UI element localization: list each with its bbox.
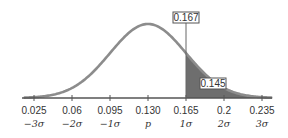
x-tick-label: 0.2 — [217, 105, 231, 116]
marker-label: 0.167 — [173, 12, 198, 23]
x-tick-label: 0.235 — [249, 105, 274, 116]
x-tick-label: 0.095 — [97, 105, 122, 116]
normal-distribution-chart: 0.025−3σ0.06−2σ0.095−1σ0.130p0.1651σ0.22… — [0, 0, 288, 138]
x-sigma-label: −3σ — [24, 118, 45, 129]
x-sigma-label: p — [145, 118, 151, 129]
distribution-curve — [25, 24, 271, 98]
x-sigma-label: 3σ — [256, 118, 269, 129]
x-tick-label: 0.06 — [62, 105, 82, 116]
area-label: 0.145 — [200, 78, 225, 89]
x-tick-label: 0.130 — [135, 105, 160, 116]
x-sigma-label: −1σ — [100, 118, 121, 129]
x-sigma-label: 1σ — [180, 118, 193, 129]
x-sigma-label: 2σ — [217, 118, 231, 129]
x-tick-label: 0.025 — [21, 105, 46, 116]
x-sigma-label: −2σ — [62, 118, 83, 129]
x-tick-label: 0.165 — [173, 105, 198, 116]
